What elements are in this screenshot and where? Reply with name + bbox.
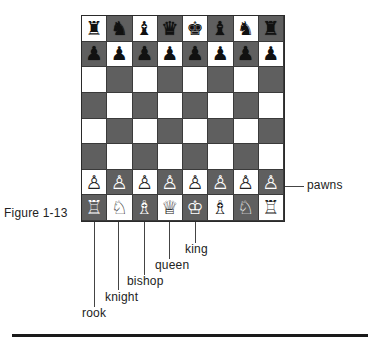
board-square (133, 119, 158, 145)
black-bishop-icon: ♝ (212, 19, 229, 38)
black-pawn-icon: ♟ (212, 44, 229, 63)
board-square: ♟ (82, 42, 107, 68)
label-pawns: pawns (307, 178, 343, 192)
pawns-leader-line (285, 186, 304, 187)
white-bishop-icon: ♗ (212, 198, 229, 217)
board-square: ♜ (82, 16, 107, 42)
black-queen-icon: ♛ (161, 19, 178, 38)
white-pawn-icon: ♙ (86, 173, 103, 192)
label-king: king (185, 242, 208, 256)
board-square (234, 67, 259, 93)
board-square (107, 67, 132, 93)
board-square (107, 119, 132, 145)
white-pawn-icon: ♙ (187, 173, 204, 192)
board-square: ♖ (82, 195, 107, 221)
black-knight-icon: ♞ (111, 19, 128, 38)
black-pawn-icon: ♟ (161, 44, 178, 63)
bishop-leader-line (144, 222, 145, 275)
white-pawn-icon: ♙ (212, 173, 229, 192)
board-square: ♟ (183, 42, 208, 68)
board-square (107, 144, 132, 170)
board-square: ♙ (259, 170, 284, 196)
board-square (82, 119, 107, 145)
board-square: ♘ (234, 195, 259, 221)
white-knight-icon: ♘ (237, 198, 254, 217)
board-square (82, 93, 107, 119)
white-pawn-icon: ♙ (111, 173, 128, 192)
board-square: ♟ (234, 42, 259, 68)
board-square: ♘ (107, 195, 132, 221)
board-square (82, 67, 107, 93)
black-pawn-icon: ♟ (187, 44, 204, 63)
board-square (183, 144, 208, 170)
board-square: ♙ (183, 170, 208, 196)
black-king-icon: ♚ (187, 19, 204, 38)
board-square: ♙ (208, 170, 233, 196)
white-pawn-icon: ♙ (237, 173, 254, 192)
board-square (234, 119, 259, 145)
board-square (234, 144, 259, 170)
king-leader-line (195, 222, 196, 243)
board-square (133, 67, 158, 93)
chess-board: ♜♞♝♛♚♝♞♜♟♟♟♟♟♟♟♟♙♙♙♙♙♙♙♙♖♘♗♕♔♗♘♖ (81, 15, 285, 222)
board-square (158, 93, 183, 119)
board-square: ♗ (208, 195, 233, 221)
black-pawn-icon: ♟ (237, 44, 254, 63)
board-square: ♟ (107, 42, 132, 68)
white-pawn-icon: ♙ (262, 173, 279, 192)
label-bishop: bishop (127, 274, 164, 288)
board-square: ♙ (158, 170, 183, 196)
white-bishop-icon: ♗ (136, 198, 153, 217)
board-square: ♛ (158, 16, 183, 42)
board-square (158, 67, 183, 93)
board-square: ♚ (183, 16, 208, 42)
label-knight: knight (105, 290, 138, 304)
board-square (208, 119, 233, 145)
black-pawn-icon: ♟ (111, 44, 128, 63)
board-square: ♙ (234, 170, 259, 196)
board-square (158, 144, 183, 170)
black-pawn-icon: ♟ (136, 44, 153, 63)
board-square (82, 144, 107, 170)
board-square (259, 67, 284, 93)
board-square: ♝ (208, 16, 233, 42)
board-square: ♖ (259, 195, 284, 221)
board-square: ♞ (107, 16, 132, 42)
board-square: ♟ (208, 42, 233, 68)
black-rook-icon: ♜ (262, 19, 279, 38)
queen-leader-line (169, 222, 170, 259)
board-square: ♟ (133, 42, 158, 68)
board-square: ♝ (133, 16, 158, 42)
board-square (133, 144, 158, 170)
board-square (208, 67, 233, 93)
board-square (259, 144, 284, 170)
white-knight-icon: ♘ (111, 198, 128, 217)
rook-leader-line (94, 222, 95, 307)
white-pawn-icon: ♙ (136, 173, 153, 192)
black-bishop-icon: ♝ (136, 19, 153, 38)
black-knight-icon: ♞ (237, 19, 254, 38)
white-king-icon: ♔ (187, 198, 204, 217)
board-square: ♙ (82, 170, 107, 196)
knight-leader-line (118, 222, 119, 290)
board-square (183, 93, 208, 119)
board-square: ♟ (259, 42, 284, 68)
white-rook-icon: ♖ (262, 198, 279, 217)
board-square (183, 67, 208, 93)
board-square (259, 119, 284, 145)
horizontal-rule (12, 334, 368, 337)
board-square (107, 93, 132, 119)
board-square: ♔ (183, 195, 208, 221)
figure-caption: Figure 1-13 (4, 206, 68, 220)
label-queen: queen (155, 258, 189, 272)
board-square (133, 93, 158, 119)
board-square: ♙ (133, 170, 158, 196)
board-square: ♜ (259, 16, 284, 42)
board-square: ♕ (158, 195, 183, 221)
white-pawn-icon: ♙ (161, 173, 178, 192)
board-square (183, 119, 208, 145)
black-rook-icon: ♜ (86, 19, 103, 38)
label-rook: rook (82, 306, 106, 320)
board-square (234, 93, 259, 119)
board-square (158, 119, 183, 145)
